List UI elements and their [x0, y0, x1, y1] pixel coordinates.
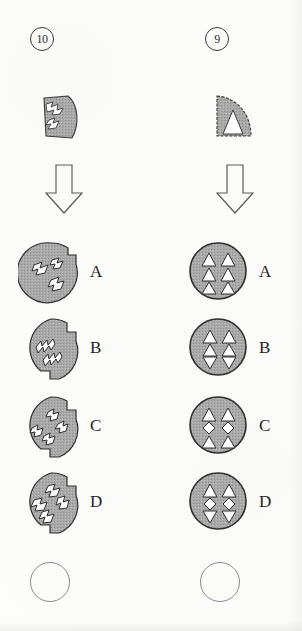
option-figure-b[interactable]	[187, 316, 249, 378]
option-figure-c[interactable]	[18, 394, 84, 460]
option-figure-d[interactable]	[187, 470, 249, 532]
problem-folded-shape	[209, 90, 257, 142]
option-letter-a: A	[90, 262, 102, 282]
worksheet-page: 10	[0, 0, 302, 631]
answer-bubble[interactable]	[200, 562, 240, 602]
question-column-9: 9	[151, 0, 302, 631]
option-row-d[interactable]: D	[0, 468, 151, 540]
option-figure-a[interactable]	[187, 240, 249, 302]
option-figure-b[interactable]	[18, 316, 84, 382]
option-row-b[interactable]: B	[0, 314, 151, 386]
option-row-d[interactable]: D	[151, 468, 302, 540]
option-letter-c: C	[259, 416, 270, 436]
option-row-a[interactable]: A	[151, 238, 302, 310]
question-number-badge: 10	[30, 27, 54, 51]
down-arrow-icon	[44, 163, 84, 215]
down-arrow-icon	[215, 163, 255, 215]
question-number-badge: 9	[205, 27, 229, 51]
option-letter-d: D	[90, 492, 102, 512]
problem-folded-shape	[38, 90, 86, 142]
option-row-a[interactable]: A	[0, 238, 151, 310]
option-row-b[interactable]: B	[151, 314, 302, 386]
option-letter-b: B	[90, 338, 101, 358]
option-figure-a[interactable]	[18, 240, 84, 306]
option-letter-a: A	[259, 262, 271, 282]
option-row-c[interactable]: C	[0, 392, 151, 464]
option-letter-b: B	[259, 338, 270, 358]
option-figure-d[interactable]	[18, 470, 84, 536]
option-figure-c[interactable]	[187, 394, 249, 456]
option-letter-c: C	[90, 416, 101, 436]
question-column-10: 10	[0, 0, 151, 631]
option-row-c[interactable]: C	[151, 392, 302, 464]
answer-bubble[interactable]	[30, 562, 70, 602]
option-letter-d: D	[259, 492, 271, 512]
